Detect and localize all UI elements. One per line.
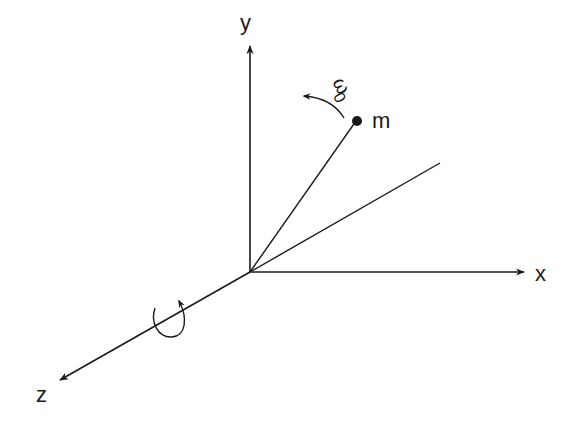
reference-line (250, 163, 440, 272)
x-axis-label: x (535, 261, 546, 286)
angular-velocity-label: ω 0 (324, 74, 358, 106)
mass-label: m (372, 108, 390, 133)
z-axis-label: z (36, 382, 47, 407)
mass-point (352, 116, 362, 126)
y-axis-label: y (240, 10, 251, 35)
rotating-mass-diagram: y x z m ω 0 (0, 0, 585, 427)
rod (250, 121, 356, 272)
rotation-arrow-icon (154, 301, 185, 337)
